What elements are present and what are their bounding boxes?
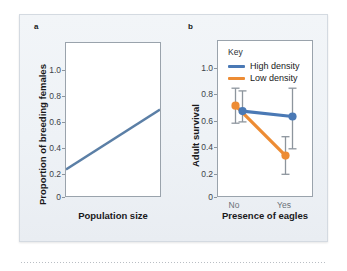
panel-a: a Proportion of breeding females Populat…	[20, 15, 177, 243]
high-density-line	[243, 111, 293, 116]
panel-b-ytick-3: 0.6	[194, 117, 213, 126]
panel-a-ytick-2: 0.8	[42, 92, 61, 101]
low-density-point-yes	[281, 152, 289, 160]
legend-item-high-density: High density	[228, 61, 300, 72]
panel-a-ytick-6: 0	[42, 193, 61, 202]
low-density-point-no	[231, 102, 239, 110]
panel-b-ytick-5: 0.2	[194, 170, 213, 179]
panel-b-ytick-2: 0.8	[194, 90, 213, 99]
panel-a-ytickmark-6	[62, 197, 65, 198]
panel-a-ytick-5: 0.2	[42, 170, 61, 179]
panel-a-ytick-3: 0.6	[42, 118, 61, 127]
legend-label-low-density: Low density	[250, 74, 298, 83]
panel-a-line-chart	[66, 43, 160, 196]
legend-swatch-high-density	[228, 65, 245, 68]
panel-b: b Adult survival Presence of eagles 1.0 …	[175, 15, 329, 243]
panel-a-trend-line	[66, 110, 160, 170]
panel-b-letter: b	[188, 22, 193, 31]
panel-b-plot-area: Key High density Low density	[217, 40, 313, 197]
panel-b-legend: Key High density Low density	[228, 48, 300, 85]
panel-a-ytick-4: 0.4	[42, 144, 61, 153]
panel-a-ytick-1: 1.0	[42, 66, 61, 75]
panel-a-letter: a	[34, 22, 38, 31]
legend-label-high-density: High density	[250, 62, 300, 71]
panel-b-xtick-no: No	[221, 201, 247, 210]
panel-b-y-axis-title: Adult survival	[191, 104, 201, 167]
bottom-divider	[21, 262, 326, 263]
panel-b-ytickmark-6	[214, 197, 217, 198]
panel-b-xtick-yes: Yes	[271, 201, 297, 210]
panel-a-plot-area	[65, 42, 161, 197]
panel-b-x-axis-title: Presence of eagles	[209, 211, 321, 221]
high-density-point-yes	[288, 112, 296, 120]
high-density-point-no	[238, 107, 246, 115]
panel-a-x-axis-title: Population size	[65, 211, 161, 221]
legend-swatch-low-density	[228, 77, 245, 80]
figure-card: a Proportion of breeding females Populat…	[19, 14, 328, 242]
panel-a-y-axis-title: Proportion of breeding females	[38, 64, 48, 205]
legend-item-low-density: Low density	[228, 73, 300, 84]
panel-b-ytick-4: 0.4	[194, 143, 213, 152]
panel-b-ytick-6: 0	[194, 193, 213, 202]
legend-title: Key	[228, 48, 300, 57]
panel-b-ytick-1: 1.0	[194, 64, 213, 73]
